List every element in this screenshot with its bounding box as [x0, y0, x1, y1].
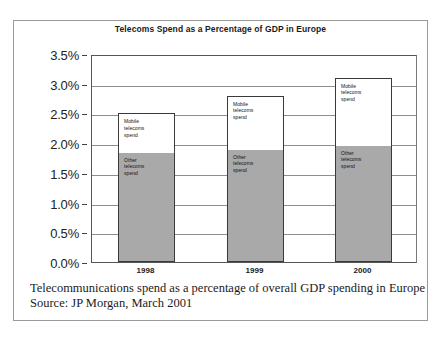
caption-source: Source: JP Morgan, March 2001 [30, 296, 422, 311]
stacked-bar[interactable]: MobiletelecomsspendOthertelecomsspend [118, 113, 175, 262]
bar-group-1999[interactable]: MobiletelecomsspendOthertelecomsspend [227, 54, 284, 262]
bar-segment-mobile-telecoms-spend[interactable]: Mobiletelecomsspend [336, 79, 391, 148]
y-axis: 0.0%0.5%1.0%1.5%2.0%2.5%3.0%3.5% [13, 55, 87, 263]
y-axis-tick-label: 2.0% [50, 137, 79, 152]
x-axis-tick-label-2000: 2000 [334, 266, 391, 275]
segment-label-mobile: Mobiletelecomsspend [341, 83, 385, 103]
segment-label-other: Othertelecomsspend [124, 157, 168, 177]
y-axis-tick-label: 3.5% [50, 48, 79, 63]
segment-label-other: Othertelecomsspend [233, 154, 277, 174]
bar-series-container: MobiletelecomsspendOthertelecomsspendMob… [92, 56, 416, 262]
bar-segment-other-telecoms-spend[interactable]: Othertelecomsspend [119, 153, 174, 261]
segment-label-mobile: Mobiletelecomsspend [233, 101, 277, 121]
y-axis-tick-label: 3.0% [50, 77, 79, 92]
y-axis-tick-mark [82, 233, 87, 234]
segment-label-other: Othertelecomsspend [341, 150, 385, 170]
y-axis-tick-mark [82, 204, 87, 205]
x-axis-tick-label-1999: 1999 [226, 266, 283, 275]
y-axis-tick-mark [82, 55, 87, 56]
y-axis-tick-mark [82, 114, 87, 115]
y-axis-tick-label: 1.0% [50, 196, 79, 211]
chart-title: Telecoms Spend as a Percentage of GDP in… [13, 24, 428, 34]
y-axis-tick-label: 0.5% [50, 226, 79, 241]
bar-segment-mobile-telecoms-spend[interactable]: Mobiletelecomsspend [228, 97, 283, 152]
bar-group-2000[interactable]: MobiletelecomsspendOthertelecomsspend [335, 54, 392, 262]
y-axis-tick-label: 0.0% [50, 256, 79, 271]
figure-caption: Telecommunications spend as a percentage… [30, 281, 422, 311]
bar-group-1998[interactable]: MobiletelecomsspendOthertelecomsspend [118, 54, 175, 262]
chart-area: 0.0%0.5%1.0%1.5%2.0%2.5%3.0%3.5% Mobilet… [13, 38, 428, 275]
caption-description: Telecommunications spend as a percentage… [30, 281, 422, 296]
y-axis-tick-mark [82, 263, 87, 264]
bar-segment-other-telecoms-spend[interactable]: Othertelecomsspend [336, 146, 391, 261]
y-axis-tick-label: 2.5% [50, 107, 79, 122]
y-axis-tick-mark [82, 85, 87, 86]
segment-label-mobile: Mobiletelecomsspend [124, 118, 168, 138]
stacked-bar[interactable]: MobiletelecomsspendOthertelecomsspend [335, 78, 392, 262]
x-axis-tick-label-1998: 1998 [117, 266, 174, 275]
stacked-bar[interactable]: MobiletelecomsspendOthertelecomsspend [227, 96, 284, 262]
y-axis-tick-mark [82, 174, 87, 175]
y-axis-tick-label: 1.5% [50, 166, 79, 181]
plot-area: MobiletelecomsspendOthertelecomsspendMob… [91, 55, 417, 263]
bar-segment-other-telecoms-spend[interactable]: Othertelecomsspend [228, 150, 283, 261]
y-axis-tick-mark [82, 144, 87, 145]
bar-segment-mobile-telecoms-spend[interactable]: Mobiletelecomsspend [119, 114, 174, 154]
x-axis: 199819992000 [91, 266, 417, 282]
